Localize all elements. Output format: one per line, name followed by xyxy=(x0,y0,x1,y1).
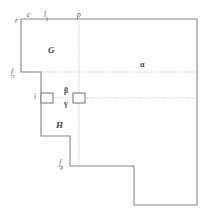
marker-subscript-fp: p xyxy=(61,164,64,170)
marker-label-p: p xyxy=(77,11,81,19)
diagram-canvas xyxy=(0,0,210,213)
marker-label-r: r xyxy=(15,17,18,25)
region-label-beta: β xyxy=(64,87,68,95)
region-label-gamma: γ xyxy=(64,100,68,108)
region-label-H: H xyxy=(56,121,63,130)
marker-subscript-fc: c xyxy=(13,73,15,79)
marker-label-fp: fp xyxy=(59,159,64,169)
region-label-alpha: α xyxy=(140,61,144,69)
marker-label-fc: fc xyxy=(11,68,16,78)
region-diagram: r c l1 p fc i fp G α β γ H xyxy=(0,0,210,213)
marker-label-c: c xyxy=(27,11,30,19)
small-box-i xyxy=(41,93,53,103)
marker-label-i: i xyxy=(34,93,36,101)
region-label-G: G xyxy=(48,46,55,55)
marker-label-l1: l1 xyxy=(44,11,49,21)
marker-subscript-l1: 1 xyxy=(46,16,49,22)
small-box-gamma-right xyxy=(73,93,85,103)
